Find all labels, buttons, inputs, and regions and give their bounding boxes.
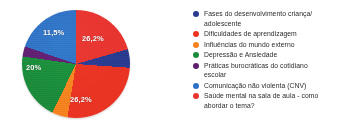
legend-bullet-icon bbox=[193, 52, 199, 58]
legend-bullet-icon bbox=[193, 42, 199, 48]
legend-bullet-icon bbox=[193, 31, 199, 37]
legend-item-label: Práticas burocráticas do cotidiano escol… bbox=[204, 61, 322, 80]
legend-item-label: Fases do desenvolvimento criança/ adoles… bbox=[204, 9, 322, 28]
pie-chart-area: 26,2% 26,2% 20% 11,5% bbox=[0, 0, 165, 130]
pie-chart-figure: 26,2% 26,2% 20% 11,5% Fases do desenvolv… bbox=[0, 0, 338, 130]
legend-item-label: Influências do mundo externo bbox=[204, 40, 295, 50]
legend-item: Práticas burocráticas do cotidiano escol… bbox=[193, 61, 334, 80]
legend-item-label: Depressão e Ansiedade bbox=[204, 50, 277, 60]
legend-bullet-icon bbox=[193, 83, 199, 89]
legend-bullet-icon bbox=[193, 11, 199, 17]
legend-item: Depressão e Ansiedade bbox=[193, 50, 334, 60]
legend-item-label: Saúde mental na sala de aula - como abor… bbox=[204, 91, 322, 110]
legend-bullet-icon bbox=[193, 93, 199, 99]
legend-item: Influências do mundo externo bbox=[193, 40, 334, 50]
legend-item: Dificuldades de aprendizagem bbox=[193, 29, 334, 39]
pie-chart-graphic bbox=[22, 10, 130, 118]
chart-legend: Fases do desenvolvimento criança/ adoles… bbox=[165, 0, 338, 111]
legend-item: Comunicação não violenta (CNV) bbox=[193, 81, 334, 91]
legend-item: Fases do desenvolvimento criança/ adoles… bbox=[193, 9, 334, 28]
legend-item-label: Comunicação não violenta (CNV) bbox=[204, 81, 306, 91]
legend-item: Saúde mental na sala de aula - como abor… bbox=[193, 91, 334, 110]
legend-item-label: Dificuldades de aprendizagem bbox=[204, 29, 297, 39]
legend-bullet-icon bbox=[193, 63, 199, 69]
